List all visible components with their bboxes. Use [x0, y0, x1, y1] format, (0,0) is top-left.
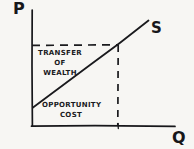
transfer-of-wealth-line-3: WEALTH	[35, 68, 85, 78]
opportunity-cost-annotation: OPPORTUNITY COST	[42, 100, 100, 120]
transfer-of-wealth-line-2: OF	[35, 58, 85, 68]
equilibrium-price-dashed-line	[32, 45, 118, 46]
supply-curve-diagram: P Q S TRANSFER OF WEALTH OPPORTUNITY COS…	[0, 0, 194, 149]
quantity-axis-label: Q	[172, 130, 186, 146]
diagram-drawing-surface	[0, 0, 194, 149]
price-axis-label: P	[13, 1, 25, 17]
transfer-of-wealth-line-1: TRANSFER	[35, 48, 85, 58]
x-axis-line	[32, 126, 176, 127]
supply-curve-label: S	[151, 21, 162, 36]
opportunity-cost-line-2: COST	[42, 110, 100, 120]
transfer-of-wealth-annotation: TRANSFER OF WEALTH	[35, 48, 85, 78]
opportunity-cost-line-1: OPPORTUNITY	[42, 100, 100, 110]
